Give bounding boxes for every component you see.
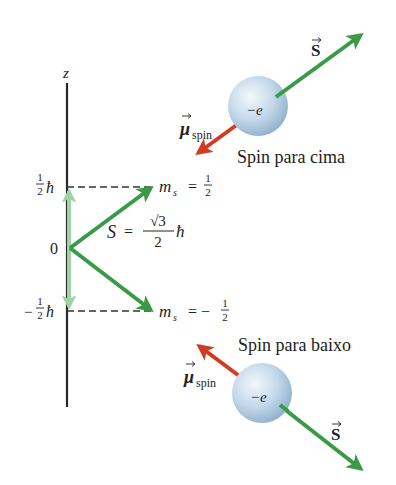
- svg-text:spin: spin: [196, 376, 216, 390]
- spin-vector-down: [70, 248, 151, 310]
- spin-down-s-vector: [283, 408, 361, 469]
- spin-down-mu-label: μ spin: [183, 362, 216, 391]
- svg-text:= −: = −: [188, 303, 210, 320]
- svg-text:2: 2: [37, 309, 43, 321]
- svg-text:S: S: [331, 425, 340, 444]
- svg-text:1: 1: [222, 297, 228, 309]
- svg-text:m: m: [159, 177, 171, 196]
- origin-label: 0: [50, 240, 58, 257]
- electron-down-charge: −e: [250, 389, 267, 405]
- spin-up-caption: Spin para cima: [237, 147, 345, 167]
- svg-text:spin: spin: [192, 128, 212, 142]
- spin-down-s-label: S: [331, 422, 341, 445]
- svg-text:ħ: ħ: [46, 303, 54, 320]
- svg-text:√3: √3: [150, 213, 166, 229]
- svg-text:s: s: [173, 312, 177, 323]
- svg-text:S: S: [311, 41, 320, 60]
- ms-down-label: m s = − 1 2: [159, 297, 229, 323]
- svg-text:2: 2: [154, 234, 162, 250]
- z-axis-label: z: [62, 65, 69, 81]
- svg-text:ħ: ħ: [176, 222, 185, 241]
- svg-text:μ: μ: [179, 119, 190, 139]
- spin-up-s-vector: [280, 35, 361, 94]
- svg-text:1: 1: [37, 171, 43, 183]
- svg-text:−: −: [24, 304, 32, 320]
- svg-text:1: 1: [37, 295, 43, 307]
- svg-text:=: =: [124, 223, 133, 240]
- svg-text:s: s: [173, 187, 177, 198]
- spin-down-mu-vector: [199, 346, 242, 378]
- spin-magnitude-label: S = √3 2 ħ: [107, 213, 185, 250]
- svg-text:2: 2: [222, 311, 228, 323]
- upper-level-label: 1 2 ħ: [36, 171, 54, 197]
- electron-up-charge: −e: [246, 102, 263, 118]
- ms-up-label: m s = 1 2: [159, 172, 212, 198]
- svg-text:S: S: [107, 222, 116, 242]
- lower-level-label: − 1 2 ħ: [24, 295, 54, 321]
- spin-down-caption: Spin para baixo: [238, 335, 351, 355]
- svg-text:μ: μ: [183, 367, 194, 387]
- svg-text:ħ: ħ: [46, 179, 54, 196]
- svg-text:2: 2: [37, 185, 43, 197]
- svg-text:m: m: [159, 302, 171, 321]
- svg-text:2: 2: [205, 186, 211, 198]
- svg-text:=: =: [188, 178, 197, 195]
- spin-diagram: z 1 2 ħ 0 − 1 2 ħ m s = 1 2 m s = − 1 2: [0, 0, 396, 485]
- svg-text:1: 1: [205, 172, 211, 184]
- spin-up-s-label: S: [311, 38, 321, 61]
- spin-up-mu-label: μ spin: [179, 114, 212, 143]
